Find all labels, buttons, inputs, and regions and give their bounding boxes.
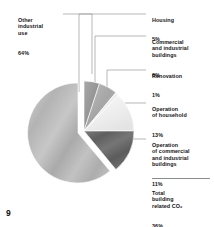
label-total-building-value: 36% — [152, 223, 163, 227]
label-total-building: Total building related CO₂ 36% — [152, 183, 212, 227]
page-number: 9 — [6, 208, 11, 218]
label-renovation-text: Renovation — [152, 73, 182, 79]
leader-housing — [79, 14, 146, 92]
label-operation-household-text: Operation of household — [152, 106, 187, 119]
label-housing-text: Housing — [152, 17, 174, 23]
label-other-industrial-text: Other industrial use — [18, 17, 43, 36]
label-other-industrial-value: 64% — [18, 50, 29, 56]
leader-other-industrial — [63, 14, 92, 74]
label-operation-household: Operation of household 13% — [152, 99, 210, 139]
total-separator-rule — [152, 178, 210, 179]
leader-commercial-buildings — [95, 36, 146, 89]
pie-chart-figure: Other industrial use 64% Housing 5% Comm… — [0, 0, 214, 227]
pie-slices — [28, 81, 134, 183]
label-commercial-buildings-text: Commercial and industrial buildings — [152, 39, 188, 58]
label-operation-commercial-text: Operation of commercial and industrial b… — [152, 142, 190, 168]
label-renovation: Renovation 1% — [152, 66, 210, 99]
label-total-building-text: Total building related CO₂ — [152, 190, 183, 209]
leader-renovation — [107, 70, 146, 87]
label-other-industrial: Other industrial use 64% — [18, 10, 64, 56]
label-operation-commercial: Operation of commercial and industrial b… — [152, 135, 212, 188]
label-renovation-value: 1% — [152, 92, 160, 98]
